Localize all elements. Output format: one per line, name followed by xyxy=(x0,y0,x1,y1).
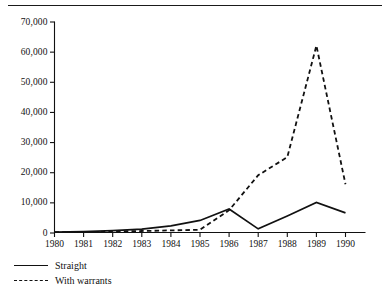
x-tick-label: 1983 xyxy=(127,239,157,250)
y-tick-label: 70,000 xyxy=(21,17,48,27)
legend-item-straight: Straight xyxy=(14,258,244,273)
series-line-with-warrants xyxy=(55,46,346,233)
x-tick-label: 1981 xyxy=(69,239,99,250)
x-tick-label: 1985 xyxy=(185,239,215,250)
y-tick-label: 60,000 xyxy=(21,47,48,57)
x-tick-label: 1986 xyxy=(214,239,244,250)
x-tick-label: 1982 xyxy=(98,239,128,250)
solid-line-key xyxy=(14,260,48,272)
legend-item-with-warrants: With warrants xyxy=(14,273,244,288)
y-tick-label: 20,000 xyxy=(21,167,48,177)
chart-legend: Straight With warrants xyxy=(14,258,244,288)
x-tick-label: 1988 xyxy=(272,239,302,250)
series-line-straight xyxy=(55,202,346,232)
x-tick-label: 1987 xyxy=(243,239,273,250)
legend-label-with-warrants: With warrants xyxy=(55,275,112,286)
x-tick-label: 1989 xyxy=(301,239,331,250)
x-tick-label: 1984 xyxy=(156,239,186,250)
y-tick-label: 30,000 xyxy=(21,137,48,147)
dashed-line-key xyxy=(14,275,48,287)
y-tick-label: 40,000 xyxy=(21,107,48,117)
x-tick-label: 1980 xyxy=(40,239,70,250)
chart-figure: 010,00020,00030,00040,00050,00060,00070,… xyxy=(0,0,390,290)
y-tick-label: 0 xyxy=(43,228,48,238)
y-tick-label: 50,000 xyxy=(21,77,48,87)
legend-label-straight: Straight xyxy=(55,260,87,271)
y-tick-label: 10,000 xyxy=(21,197,48,207)
x-tick-label: 1990 xyxy=(331,239,361,250)
